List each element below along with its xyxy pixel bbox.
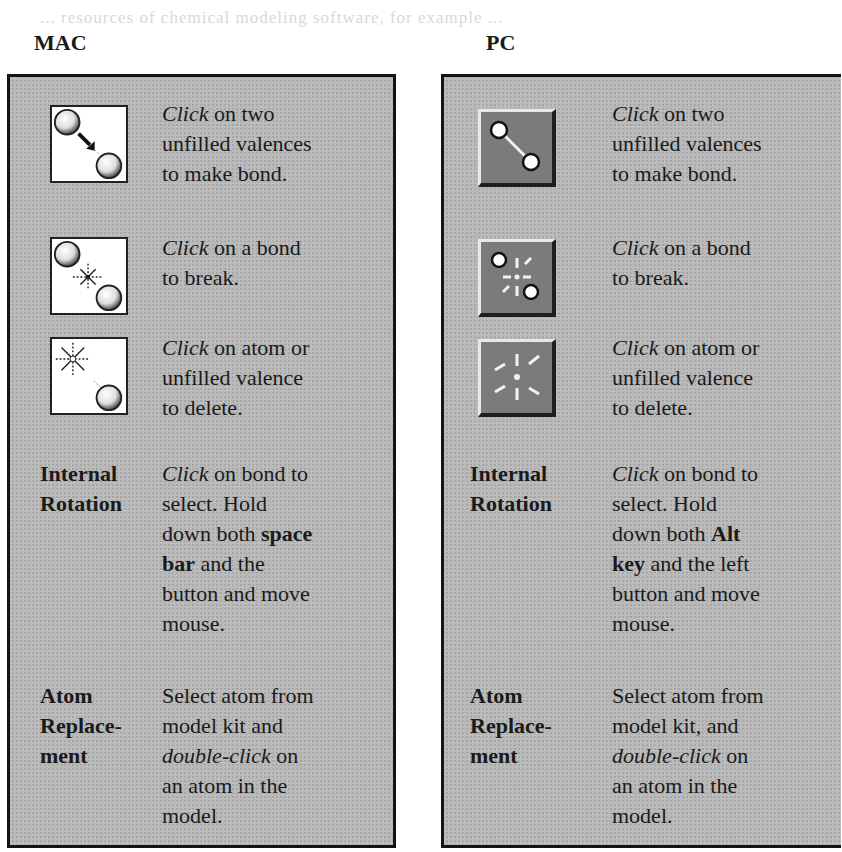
atom-replacement-label: Atom Replace- ment bbox=[40, 681, 160, 771]
mac-heading: MAC bbox=[34, 30, 87, 56]
atom-replacement-desc: Select atom from model kit, and double-c… bbox=[612, 681, 842, 831]
faded-header-text: ... resources of chemical modeling softw… bbox=[40, 8, 820, 30]
atom-replacement-desc: Select atom from model kit and double-cl… bbox=[162, 681, 392, 831]
internal-rotation-label: Internal Rotation bbox=[470, 459, 610, 519]
make-bond-icon[interactable] bbox=[478, 109, 556, 187]
pc-make-bond-desc: Click on two unfilled valences to make b… bbox=[612, 99, 842, 189]
make-bond-icon[interactable] bbox=[50, 105, 128, 183]
delete-atom-icon[interactable] bbox=[50, 337, 128, 415]
atom-replacement-label: Atom Replace- ment bbox=[470, 681, 610, 771]
pc-break-bond-desc: Click on a bond to break. bbox=[612, 233, 842, 293]
mac-panel: Click on two unfilled valences to make b… bbox=[7, 74, 396, 848]
internal-rotation-desc: Click on bond to select. Hold down both … bbox=[162, 459, 392, 639]
mac-break-bond-desc: Click on a bond to break. bbox=[162, 233, 392, 293]
internal-rotation-label: Internal Rotation bbox=[40, 459, 160, 519]
internal-rotation-desc: Click on bond to select. Hold down both … bbox=[612, 459, 842, 639]
pc-panel: Click on two unfilled valences to make b… bbox=[441, 74, 841, 848]
mac-make-bond-desc: Click on two unfilled valences to make b… bbox=[162, 99, 392, 189]
break-bond-icon[interactable] bbox=[50, 237, 128, 315]
pc-heading: PC bbox=[486, 30, 515, 56]
mac-delete-desc: Click on atom or unfilled valence to del… bbox=[162, 333, 392, 423]
pc-delete-desc: Click on atom or unfilled valence to del… bbox=[612, 333, 842, 423]
delete-atom-icon[interactable] bbox=[478, 339, 556, 417]
break-bond-icon[interactable] bbox=[478, 239, 556, 317]
